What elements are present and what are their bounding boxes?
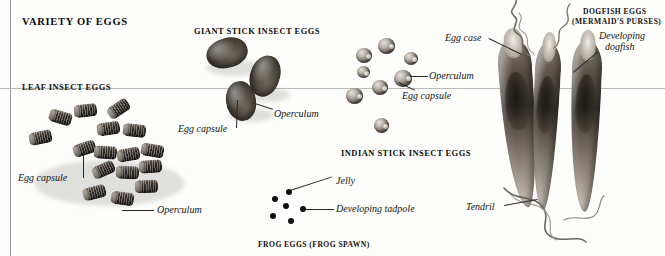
leaf-insect-egg	[106, 97, 132, 120]
leaf-insect-egg	[74, 103, 97, 118]
leader-line-leaf-egg-capsule	[83, 150, 84, 178]
callout-dogfish-egg-case: Egg case	[445, 32, 481, 43]
egg-variety-figure: VARIETY OF EGGS LEAF INSECT EGGS GIANT S…	[0, 0, 665, 256]
callout-indian-egg-capsule: Egg capsule	[402, 90, 451, 101]
leaf-insect-egg	[49, 108, 74, 127]
leader-line-leaf-operculum	[122, 210, 154, 211]
callout-giant-operculum: Operculum	[274, 108, 319, 119]
callout-giant-egg-capsule: Egg capsule	[178, 123, 227, 134]
section-heading-leaf-insect: LEAF INSECT EGGS	[22, 82, 111, 92]
leaf-insect-egg	[141, 142, 165, 159]
leaf-insect-egg	[117, 166, 139, 180]
indian-stick-insect-egg	[356, 48, 372, 63]
indian-stick-insect-egg	[372, 80, 388, 95]
callout-leaf-egg-capsule: Egg capsule	[18, 172, 67, 183]
frog-spawn-dot	[283, 203, 289, 209]
tendril-upper-right	[540, 2, 594, 50]
frog-spawn-dot	[270, 213, 276, 219]
callout-dogfish-developing-line2: dogfish	[605, 41, 634, 52]
frog-spawn-dot	[272, 196, 278, 202]
leaf-insect-egg	[97, 121, 121, 137]
callout-frog-tadpole: Developing tadpole	[336, 203, 415, 214]
leaf-insect-egg	[136, 180, 158, 194]
left-margin-rule	[10, 0, 11, 256]
leaf-insect-egg	[29, 129, 53, 146]
indian-stick-insect-egg	[346, 88, 363, 104]
leaf-insect-egg	[123, 123, 146, 138]
callout-dogfish-developing-line1: Developing	[599, 30, 645, 41]
indian-stick-insect-egg	[374, 118, 389, 133]
indian-stick-insect-egg	[378, 38, 395, 54]
leaf-insect-egg	[117, 146, 141, 163]
callout-dogfish-tendril: Tendril	[466, 201, 495, 212]
indian-stick-insect-egg	[357, 66, 370, 78]
section-heading-giant-stick: GIANT STICK INSECT EGGS	[194, 26, 320, 36]
callout-frog-jelly: Jelly	[336, 175, 355, 186]
tendril-lower	[498, 184, 608, 256]
page-title: VARIETY OF EGGS	[22, 16, 128, 27]
indian-stick-insect-egg	[404, 52, 418, 65]
leaf-insect-egg	[95, 145, 118, 160]
leader-line-indian-operculum	[410, 76, 428, 77]
callout-indian-operculum: Operculum	[429, 70, 474, 81]
callout-leaf-operculum: Operculum	[157, 204, 202, 215]
frog-spawn-dot	[288, 218, 294, 224]
leader-line-frog-jelly	[290, 176, 332, 191]
section-heading-frog: FROG EGGS (FROG SPAWN)	[258, 240, 370, 250]
leaf-insect-egg	[140, 159, 163, 174]
leader-line-frog-tadpole	[306, 209, 334, 210]
section-heading-indian-stick: INDIAN STICK INSECT EGGS	[341, 148, 471, 158]
